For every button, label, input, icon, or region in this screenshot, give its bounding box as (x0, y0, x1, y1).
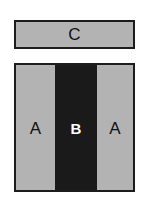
band-region-a-right: A (97, 65, 133, 190)
band-region-b: B (55, 65, 97, 190)
bottom-composite-block: A B A (14, 63, 135, 192)
schematic-diagram: C A B A (0, 0, 147, 207)
band-label-a-left: A (30, 120, 41, 137)
band-label-a-right: A (109, 120, 120, 137)
top-layer-region-c: C (14, 20, 135, 49)
band-region-a-left: A (16, 65, 55, 190)
top-layer-label: C (68, 26, 80, 43)
band-label-b: B (71, 121, 82, 136)
